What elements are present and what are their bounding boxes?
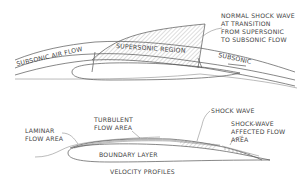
label-turbulent-line2: FLOW AREA xyxy=(94,124,133,131)
caption-velocity-profiles: VELOCITY PROFILES xyxy=(110,168,175,175)
label-affected-line2: AFFECTED FLOW xyxy=(231,128,285,135)
label-turbulent-line1: TURBULENT xyxy=(93,116,133,123)
laminar-leader xyxy=(62,133,78,144)
lower-airfoil-diagram: LAMINAR FLOW AREA TURBULENT FLOW AREA BO… xyxy=(25,107,285,175)
label-shock-line1: NORMAL SHOCK WAVE xyxy=(221,12,295,19)
streamline-bottom xyxy=(15,74,297,88)
turbulent-leader xyxy=(132,131,140,138)
airfoil-shock-wave-diagram: SUBSONIC AIR FLOW SUPERSONIC REGION SUBS… xyxy=(0,0,307,179)
label-laminar-line1: LAMINAR xyxy=(25,127,55,134)
label-shock-line2: AT TRANSITION xyxy=(221,20,271,27)
label-shock-line4: TO SUBSONIC FLOW xyxy=(220,36,287,43)
turbulent-zone-hatch xyxy=(180,140,218,150)
label-shock-line3: FROM SUPERSONIC xyxy=(221,28,284,35)
label-affected-line1: SHOCK-WAVE xyxy=(231,120,274,127)
label-boundary-layer: BOUNDARY LAYER xyxy=(99,151,158,158)
label-affected-line3: AREA xyxy=(231,136,249,143)
shock-transition-line xyxy=(92,52,95,72)
shock-wave-leader xyxy=(197,111,210,141)
subsonic-arrow xyxy=(228,64,246,66)
label-subsonic: SUBSONIC xyxy=(218,51,252,65)
label-laminar-line2: FLOW AREA xyxy=(25,135,64,142)
shock-leader-line xyxy=(203,28,222,36)
shock-affected-profiles xyxy=(222,146,259,156)
upper-airfoil-diagram: SUBSONIC AIR FLOW SUPERSONIC REGION SUBS… xyxy=(15,12,297,88)
label-shock-wave: SHOCK WAVE xyxy=(211,107,255,114)
